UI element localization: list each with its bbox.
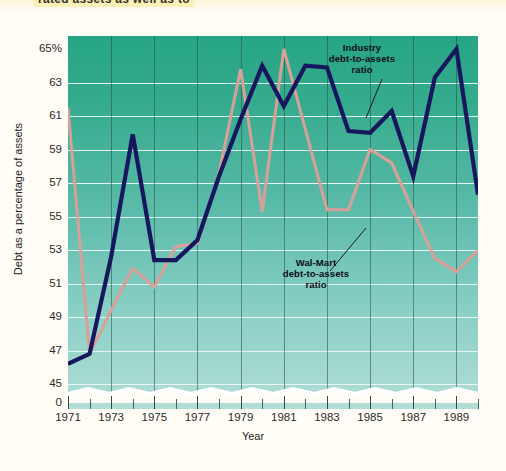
x-tick-label: 1971 — [46, 411, 90, 423]
x-axis-tick — [435, 399, 436, 409]
x-axis-tick — [349, 399, 350, 409]
annotation-line: ratio — [266, 279, 366, 290]
annotation-line: ratio — [314, 64, 410, 75]
x-axis-tick — [305, 399, 306, 409]
x-axis-tick — [370, 396, 371, 409]
x-tick-label: 1981 — [262, 411, 306, 423]
x-axis-tick — [111, 396, 112, 409]
x-axis-tick — [241, 396, 242, 409]
x-axis-tick — [478, 399, 479, 409]
x-tick-label: 1985 — [348, 411, 392, 423]
x-axis-tick — [327, 396, 328, 409]
x-tick-label: 1977 — [175, 411, 219, 423]
annotation-line: debt-to-assets — [266, 268, 366, 279]
x-axis-title: Year — [0, 430, 506, 442]
x-axis-tick — [219, 399, 220, 409]
x-axis-tick — [392, 399, 393, 409]
x-axis-tick — [176, 399, 177, 409]
x-tick-label: 1989 — [434, 411, 478, 423]
plot-area — [68, 36, 478, 409]
annotation-line: debt-to-assets — [314, 53, 410, 64]
chart-container: Debt as a percentage of assets 65%636159… — [0, 13, 506, 471]
y-tick-label: 65% — [4, 43, 62, 55]
annotation-line: Industry — [314, 42, 410, 53]
y-tick-label: 55 — [4, 211, 62, 223]
x-axis-tick-labels: 1971197319751977197919811983198519871989 — [0, 411, 506, 431]
x-axis-tick — [262, 399, 263, 409]
x-tick-label: 1979 — [219, 411, 263, 423]
y-tick-label: 45 — [4, 378, 62, 390]
y-axis-tick-labels: 65%63615957555351494745 — [0, 36, 62, 436]
data-series-lines — [68, 36, 478, 409]
x-tick-label: 1987 — [391, 411, 435, 423]
y-tick-label: 57 — [4, 177, 62, 189]
annotation-industry: Industrydebt-to-assetsratio — [314, 42, 410, 76]
y-axis-zero-label: 0 — [0, 396, 62, 408]
y-tick-label: 51 — [4, 278, 62, 290]
x-axis-tick — [456, 396, 457, 409]
y-tick-label: 61 — [4, 110, 62, 122]
x-axis-tick — [154, 396, 155, 409]
x-axis-tick — [68, 396, 69, 409]
x-axis-tick — [90, 399, 91, 409]
series-line-industry — [68, 49, 478, 364]
x-axis-tick — [133, 399, 134, 409]
x-axis-tick — [413, 396, 414, 409]
y-tick-label: 63 — [4, 77, 62, 89]
x-axis-tick — [197, 396, 198, 409]
x-tick-label: 1973 — [89, 411, 133, 423]
y-tick-label: 49 — [4, 311, 62, 323]
y-tick-label: 53 — [4, 244, 62, 256]
page-heading-strip: rated assets as well as to — [0, 0, 506, 13]
heading-text: rated assets as well as to — [34, 0, 194, 7]
x-tick-label: 1975 — [132, 411, 176, 423]
series-line-walmart — [68, 49, 478, 354]
y-tick-label: 59 — [4, 144, 62, 156]
annotation-line: Wal-Mart — [266, 257, 366, 268]
x-axis-tick — [284, 396, 285, 409]
y-tick-label: 47 — [4, 345, 62, 357]
annotation-walmart: Wal-Martdebt-to-assetsratio — [266, 257, 366, 291]
x-tick-label: 1983 — [305, 411, 349, 423]
